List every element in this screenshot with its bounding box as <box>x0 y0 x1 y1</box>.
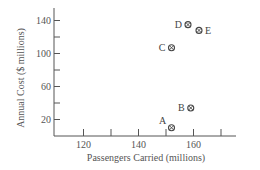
x-tick-label: 140 <box>131 139 146 150</box>
data-points: ABCDE <box>159 19 211 131</box>
y-tick-label: 140 <box>36 15 51 26</box>
y-tick-label: 100 <box>36 48 51 59</box>
data-point-d: D <box>175 19 191 30</box>
point-label: E <box>205 25 211 36</box>
point-label: C <box>159 42 166 53</box>
data-point-a: A <box>159 115 175 131</box>
scatter-chart: 2060100140120140160 ABCDE Passengers Car… <box>0 0 260 170</box>
x-axis-title: Passengers Carried (millions) <box>87 152 205 164</box>
y-tick-label: 20 <box>41 114 51 125</box>
data-point-e: E <box>196 25 211 36</box>
point-label: D <box>175 19 182 30</box>
y-axis-title: Annual Cost ($ millions) <box>15 28 27 128</box>
point-label: B <box>178 102 185 113</box>
x-tick-label: 160 <box>186 139 201 150</box>
data-point-b: B <box>178 102 194 113</box>
y-tick-label: 60 <box>41 81 51 92</box>
data-point-c: C <box>159 42 175 53</box>
point-label: A <box>159 115 167 126</box>
x-tick-label: 120 <box>76 139 91 150</box>
